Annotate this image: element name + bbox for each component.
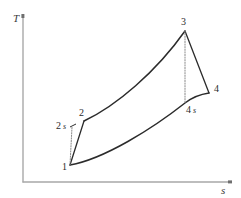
state-label-4s-suffix: s xyxy=(193,106,196,115)
state-label-2: 2 xyxy=(79,107,84,118)
x-axis-arrow-cap xyxy=(228,180,232,183)
state-label-1: 1 xyxy=(62,161,67,172)
state-label-2s-number: 2 xyxy=(56,120,61,131)
ts-diagram-figure: T s 1 2 s 2 3 4 s 4 xyxy=(0,0,241,198)
state-label-4: 4 xyxy=(214,83,219,94)
x-axis-label: s xyxy=(221,184,225,196)
y-axis-arrow-cap xyxy=(21,14,24,18)
state-label-3: 3 xyxy=(181,16,186,27)
state-label-4s-number: 4 xyxy=(186,104,191,115)
y-axis-label: T xyxy=(13,12,20,24)
state-label-2s-suffix: s xyxy=(63,122,66,131)
